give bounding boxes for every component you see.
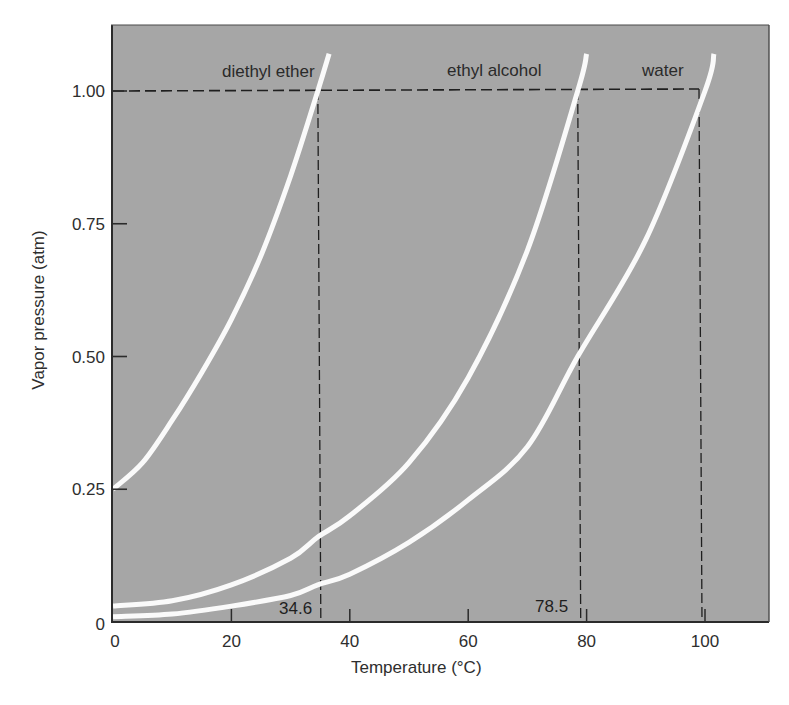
series-label-diethyl-ether: diethyl ether: [222, 62, 315, 81]
x-tick-label: 80: [577, 632, 596, 651]
y-tick-label: 0.50: [72, 348, 105, 367]
vapor-pressure-chart: 02040608010000.250.500.751.00 diethyl et…: [0, 0, 789, 705]
x-tick-label: 60: [459, 632, 478, 651]
x-tick-label: 20: [222, 632, 241, 651]
y-axis-title: Vapor pressure (atm): [29, 230, 48, 389]
series-label-water: water: [641, 61, 684, 80]
series-label-ethyl-alcohol: ethyl alcohol: [447, 61, 542, 80]
x-tick-label: 100: [691, 632, 719, 651]
x-axis-title: Temperature (°C): [351, 658, 482, 677]
plot-area: [111, 25, 769, 622]
x-tick-label: 0: [110, 632, 119, 651]
annotation-bp-alcohol: 78.5: [535, 597, 568, 616]
x-tick-label: 40: [340, 632, 359, 651]
y-tick-label: 1.00: [72, 82, 105, 101]
y-tick-label: 0: [96, 615, 105, 634]
y-tick-label: 0.75: [72, 215, 105, 234]
y-tick-label: 0.25: [72, 480, 105, 499]
annotation-bp-ether: 34.6: [279, 599, 312, 618]
